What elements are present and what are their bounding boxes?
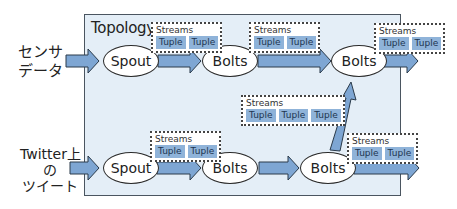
tuple-chip: Tuple (254, 36, 284, 49)
tuple-chip: Tuple (188, 145, 218, 158)
tuple-chip: Tuple (246, 109, 276, 122)
streams-box-top-1: Streams Tuple Tuple (151, 22, 222, 53)
tuple-chip: Tuple (385, 147, 415, 160)
streams-label: Streams (246, 98, 341, 109)
arrow-icon (66, 49, 99, 73)
streams-label: Streams (156, 25, 218, 36)
arrow-icon (259, 156, 299, 180)
streams-box-top-out: Streams Tuple Tuple (374, 23, 445, 54)
tuple-chip: Tuple (352, 147, 382, 160)
tuple-chip: Tuple (156, 36, 186, 49)
tuple-chip: Tuple (287, 36, 317, 49)
tuple-chip: Tuple (412, 37, 442, 50)
streams-label: Streams (254, 25, 316, 36)
streams-box-middle: Streams Tuple Tuple Tuple (241, 95, 345, 126)
tuple-chip: Tuple (189, 36, 219, 49)
streams-label: Streams (352, 136, 414, 147)
tuple-chip: Tuple (311, 109, 341, 122)
tuple-chip: Tuple (155, 145, 185, 158)
tuple-chip: Tuple (279, 109, 309, 122)
streams-box-top-2: Streams Tuple Tuple (249, 22, 320, 53)
streams-box-bottom-1: Streams Tuple Tuple (150, 131, 221, 162)
arrow-icon (70, 156, 99, 180)
streams-label: Streams (155, 134, 217, 145)
tuple-chip: Tuple (379, 37, 409, 50)
streams-box-bottom-out: Streams Tuple Tuple (347, 133, 418, 164)
streams-label: Streams (379, 26, 441, 37)
